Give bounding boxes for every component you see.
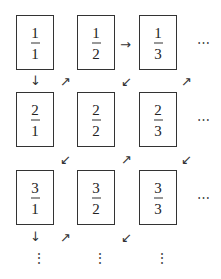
fraction-bar <box>154 42 163 43</box>
numerator: 1 <box>17 24 53 40</box>
arrow-down-left-icon: ↙ <box>181 153 192 166</box>
denominator: 1 <box>17 122 53 138</box>
cell-3-3: 3 3 <box>139 170 177 225</box>
arrow-right-icon: → <box>120 38 131 51</box>
ellipsis-row-3: ⋯ <box>197 190 211 206</box>
fraction-bar <box>154 197 163 198</box>
arrow-down-icon: ↓ <box>30 74 41 87</box>
fraction-bar <box>154 119 163 120</box>
fraction-bar <box>92 119 101 120</box>
denominator: 1 <box>17 200 53 216</box>
fraction-bar <box>31 42 40 43</box>
denominator: 1 <box>17 45 53 61</box>
numerator: 2 <box>78 101 114 117</box>
numerator: 2 <box>140 101 176 117</box>
fraction: 3 2 <box>78 179 114 216</box>
fraction-bar <box>92 42 101 43</box>
numerator: 3 <box>78 179 114 195</box>
fraction-bar <box>31 119 40 120</box>
denominator: 3 <box>140 122 176 138</box>
fraction-bar <box>92 197 101 198</box>
arrow-up-right-icon: ↗ <box>181 75 192 88</box>
fraction-bar <box>31 197 40 198</box>
arrow-up-right-icon: ↗ <box>60 75 71 88</box>
cell-1-1: 1 1 <box>16 15 54 70</box>
fraction: 2 3 <box>140 101 176 138</box>
denominator: 2 <box>78 200 114 216</box>
cell-2-3: 2 3 <box>139 92 177 147</box>
numerator: 1 <box>140 24 176 40</box>
cell-2-2: 2 2 <box>77 92 115 147</box>
ellipsis-col-2: ⋮ <box>93 252 99 266</box>
ellipsis-row-1: ⋯ <box>197 35 211 51</box>
arrow-down-left-icon: ↙ <box>121 231 132 244</box>
numerator: 3 <box>17 179 53 195</box>
cell-3-2: 3 2 <box>77 170 115 225</box>
arrow-down-left-icon: ↙ <box>60 153 71 166</box>
fraction: 3 3 <box>140 179 176 216</box>
numerator: 1 <box>78 24 114 40</box>
denominator: 3 <box>140 45 176 61</box>
arrow-down-icon: ↓ <box>30 230 41 243</box>
numerator: 3 <box>140 179 176 195</box>
ellipsis-col-3: ⋮ <box>155 252 161 266</box>
cell-3-1: 3 1 <box>16 170 54 225</box>
denominator: 2 <box>78 122 114 138</box>
denominator: 3 <box>140 200 176 216</box>
cell-1-3: 1 3 <box>139 15 177 70</box>
cell-2-1: 2 1 <box>16 92 54 147</box>
fraction: 2 2 <box>78 101 114 138</box>
fraction: 2 1 <box>17 101 53 138</box>
ellipsis-row-2: ⋯ <box>197 112 211 128</box>
arrow-up-right-icon: ↗ <box>60 231 71 244</box>
numerator: 2 <box>17 101 53 117</box>
fraction: 3 1 <box>17 179 53 216</box>
ellipsis-col-1: ⋮ <box>32 252 38 266</box>
arrow-down-left-icon: ↙ <box>121 75 132 88</box>
fraction: 1 2 <box>78 24 114 61</box>
cell-1-2: 1 2 <box>77 15 115 70</box>
arrow-up-right-icon: ↗ <box>121 153 132 166</box>
fraction: 1 3 <box>140 24 176 61</box>
denominator: 2 <box>78 45 114 61</box>
fraction: 1 1 <box>17 24 53 61</box>
